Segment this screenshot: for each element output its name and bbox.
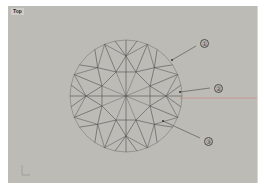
diamond-drawing xyxy=(0,0,264,189)
diamond-facets xyxy=(70,40,182,152)
callout-1: ① xyxy=(200,39,209,48)
axis-indicator-icon xyxy=(22,165,30,175)
callout-2: ② xyxy=(214,84,223,93)
callout-3: ③ xyxy=(204,137,213,146)
